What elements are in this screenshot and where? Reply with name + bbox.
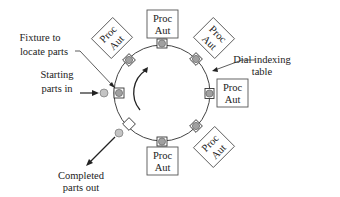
station-label-line2: Aut xyxy=(225,94,241,105)
part-icon xyxy=(158,40,165,47)
station-label-line1: Proc xyxy=(153,150,173,161)
fixture-upper-left xyxy=(123,54,136,67)
part-icon xyxy=(206,90,213,97)
dial-label-line1: Dial indexing xyxy=(233,54,291,65)
fixture-label-line2: locate parts xyxy=(20,46,68,57)
station-right: Proc Aut xyxy=(205,79,248,107)
parts-out-arrow xyxy=(86,137,115,166)
part-icon xyxy=(115,89,122,96)
completed-label-line1: Completed xyxy=(58,170,105,181)
station-label-line1: Proc xyxy=(223,82,243,93)
station-bottom: Proc Aut xyxy=(147,137,178,175)
incoming-part-icon xyxy=(100,89,108,97)
parts-in-arrow xyxy=(80,90,99,96)
completed-label-line2: parts out xyxy=(63,182,100,193)
station-lower-right: Proc Aut xyxy=(193,126,234,167)
station-upper-left: Proc Aut xyxy=(91,17,132,58)
station-label-line1: Proc xyxy=(153,13,173,24)
station-label-line2: Aut xyxy=(155,25,171,36)
starting-label-line1: Starting xyxy=(40,69,74,80)
part-icon xyxy=(124,55,134,65)
station-label-line2: Aut xyxy=(155,162,171,173)
fixture-icon xyxy=(123,118,136,131)
part-icon xyxy=(158,138,165,145)
station-upper-right: Proc Aut xyxy=(193,17,234,58)
fixture-lower-left-empty xyxy=(123,118,136,131)
dial-label-line2: table xyxy=(252,66,273,77)
dial-indexing-diagram: Proc Aut Proc Aut Proc Aut Proc Aut Proc… xyxy=(0,0,340,197)
fixture-left-load xyxy=(114,88,124,98)
rotation-arrow-icon xyxy=(134,67,148,110)
starting-label-line2: parts in xyxy=(41,83,73,94)
completed-part-icon xyxy=(115,129,123,137)
fixture-label-line1: Fixture to xyxy=(19,32,60,43)
station-top: Proc Aut xyxy=(147,10,178,48)
